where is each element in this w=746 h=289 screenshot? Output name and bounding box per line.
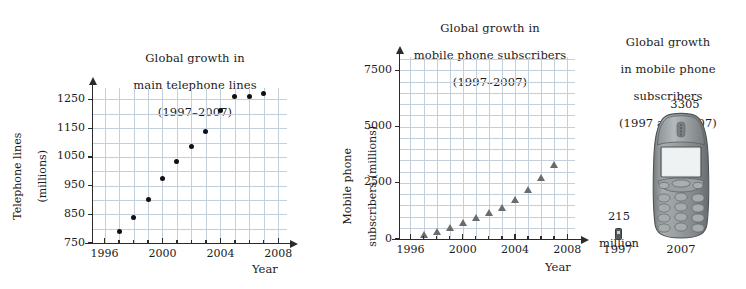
pictogram-panel-mobile-subscribers: Global growth in mobile phone subscriber… [590,0,746,289]
y-axis-tick-label: 950 [40,178,85,191]
x-axis-tick-label: 2004 [198,247,242,260]
chart3-year-label-1997: 1997 [597,242,639,256]
x-axis-tick-major [410,234,411,239]
y-axis-tick [395,70,400,71]
x-axis-tick-minor [423,236,424,239]
gridline-horizontal [400,138,575,139]
gridline-vertical [424,57,425,239]
gridline-horizontal [400,194,575,195]
x-axis-tick-label: 2000 [140,247,184,260]
chart3-value-2007-number: 3305 [645,98,725,112]
gridline-vertical [476,57,477,239]
gridline-horizontal [400,104,575,105]
gridline-vertical [119,88,120,243]
y-axis-tick-label: 1250 [40,92,85,105]
gridline-horizontal [93,99,287,100]
chart2-x-axis-label: Year [545,260,571,274]
y-axis-tick-label: 750 [40,236,85,249]
y-axis-tick [88,185,93,186]
gridline-vertical [191,88,192,243]
x-axis-tick-minor [436,236,437,239]
x-axis-tick-minor [205,240,206,243]
gridline-vertical [450,57,451,239]
y-axis-tick [395,182,400,183]
x-axis-tick-minor [501,236,502,239]
chart2-title-line1: Global growth in [400,22,580,36]
gridline-vertical [278,88,279,243]
gridline-horizontal [93,128,287,129]
y-axis-tick [395,126,400,127]
chart2-plot-area [400,57,575,239]
gridline-vertical [502,57,503,239]
x-axis-tick-major [514,234,515,239]
chart1-y-axis-label-line1: Telephone lines [11,121,24,231]
gridline-horizontal [400,228,575,229]
y-axis-tick-label: 5000 [350,119,392,132]
data-point [247,94,252,99]
data-point [537,174,545,181]
gridline-vertical [162,88,163,243]
x-axis-tick-minor [249,240,250,243]
chart1-x-axis-label: Year [252,262,278,276]
data-point [498,204,506,211]
gridline-horizontal [400,205,575,206]
x-axis-tick-minor [263,240,264,243]
x-axis-tick-minor [176,240,177,243]
gridline-vertical [541,57,542,239]
y-axis-tick [88,99,93,100]
x-axis-tick-label: 1996 [83,247,127,260]
x-axis-tick-label: 2008 [545,243,589,256]
y-axis-tick-label: 850 [40,207,85,220]
chart1-gridlines [93,88,287,243]
gridline-horizontal [93,157,287,158]
x-axis-tick-label: 1996 [388,243,432,256]
chart3-title-line2: in mobile phone [593,63,743,77]
gridline-vertical [249,88,250,243]
x-axis-tick-minor [540,236,541,239]
gridline-horizontal [93,186,287,187]
chart1-x-axis [85,243,291,244]
y-axis-tick-label: 7500 [350,63,392,76]
chart-panel-mobile-subscribers: Global growth in mobile phone subscriber… [300,0,590,289]
gridline-horizontal [400,115,575,116]
gridline-horizontal [400,160,575,161]
gridline-horizontal [400,127,575,128]
x-axis-tick-minor [118,240,119,243]
gridline-horizontal [400,70,575,71]
chart1-y-axis-arrow-icon [89,77,97,85]
gridline-horizontal [93,214,287,215]
gridline-vertical [437,57,438,239]
x-axis-tick-major [104,238,105,243]
x-axis-tick-minor [191,240,192,243]
y-axis-tick-label: 2500 [350,175,392,188]
y-axis-tick-label: 1050 [40,149,85,162]
data-point [550,161,558,168]
x-axis-tick-minor [449,236,450,239]
gridline-horizontal [400,59,575,60]
x-axis-tick-major [462,234,463,239]
gridline-horizontal [400,183,575,184]
x-axis-tick-label: 2008 [256,247,300,260]
y-axis-tick-label: 0 [350,232,392,245]
data-point [459,219,467,226]
gridline-vertical [567,57,568,239]
gridline-vertical [177,88,178,243]
gridline-horizontal [400,217,575,218]
x-axis-tick-label: 2004 [493,243,537,256]
data-point [472,214,480,221]
gridline-horizontal [93,200,287,201]
data-point [485,209,493,216]
chart-panel-telephone-lines: Global growth in main telephone lines (1… [0,0,300,289]
gridline-vertical [148,88,149,243]
mobile-phone-icon-2007 [650,112,712,240]
x-axis-tick-major [567,234,568,239]
x-axis-tick-major [220,238,221,243]
y-axis-tick [88,214,93,215]
chart1-y-axis [92,84,93,243]
gridline-vertical [515,57,516,239]
data-point [433,228,441,235]
chart2-y-axis-arrow-icon [396,46,404,54]
gridline-vertical [264,88,265,243]
gridline-vertical [463,57,464,239]
gridline-horizontal [93,171,287,172]
